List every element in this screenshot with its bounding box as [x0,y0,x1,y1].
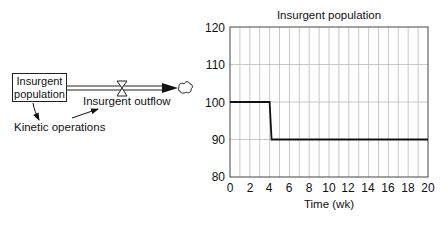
x-tick: 4 [259,181,279,195]
x-axis-label: Time (wk) [229,198,429,210]
x-tick: 10 [319,181,339,195]
x-tick: 6 [279,181,299,195]
x-tick: 0 [220,181,240,195]
x-tick: 18 [398,181,418,195]
y-tick: 110 [199,58,225,72]
x-tick: 14 [358,181,378,195]
y-tick: 90 [199,133,225,147]
x-tick: 20 [418,181,438,195]
x-tick: 12 [338,181,358,195]
x-tick: 8 [299,181,319,195]
x-tick: 16 [378,181,398,195]
y-tick: 100 [199,96,225,110]
x-tick: 2 [240,181,260,195]
y-tick: 120 [199,21,225,35]
